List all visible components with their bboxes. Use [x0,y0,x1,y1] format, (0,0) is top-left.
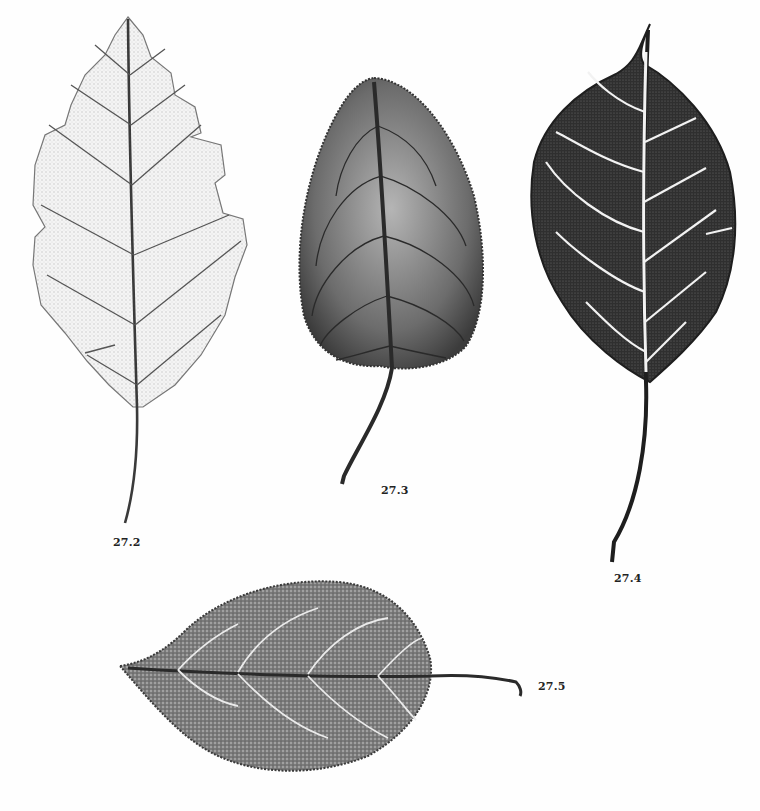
figure-label-27-5: 27.5 [538,680,566,693]
leaf-figure-27-4 [526,22,738,567]
figure-label-27-2: 27.2 [113,536,141,549]
leaf-figure-27-5 [118,578,530,778]
leaf-figure-27-3 [296,76,486,488]
leaf-figure-27-2 [25,15,255,530]
leaf-print-plate: 27.2 27.3 [0,0,760,811]
figure-label-27-3: 27.3 [381,484,409,497]
figure-label-27-4: 27.4 [614,572,642,585]
